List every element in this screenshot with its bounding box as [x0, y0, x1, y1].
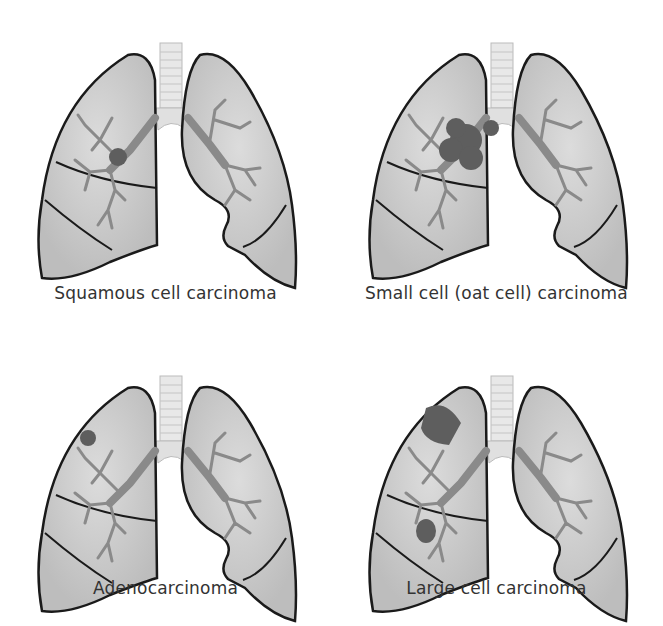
panel-caption: Large cell carcinoma — [331, 578, 662, 598]
panel-large-cell: Large cell carcinoma — [331, 313, 662, 626]
lungs-illustration — [0, 0, 331, 313]
panel-caption: Squamous cell carcinoma — [0, 283, 331, 303]
panel-caption: Small cell (oat cell) carcinoma — [331, 283, 662, 303]
tumor-marker — [109, 148, 127, 166]
tumor-marker — [80, 430, 96, 446]
lungs-illustration — [331, 0, 662, 313]
panel-adenocarcinoma: Adenocarcinoma — [0, 313, 331, 626]
tumor-marker — [416, 519, 436, 543]
panel-small-cell: Small cell (oat cell) carcinoma — [331, 0, 662, 313]
panel-squamous-cell: Squamous cell carcinoma — [0, 0, 331, 313]
panel-caption: Adenocarcinoma — [0, 578, 331, 598]
